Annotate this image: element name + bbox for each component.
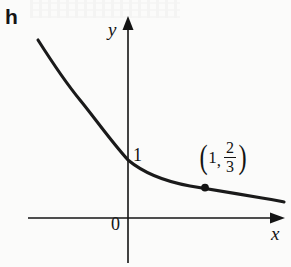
marked-point-dot (201, 184, 209, 192)
exponential-decay-figure: h y x 1 0 ( 1 , 2 3 ) (0, 0, 291, 267)
comma-separator: , (217, 152, 221, 169)
plot-canvas (0, 0, 291, 267)
exponential-curve (38, 40, 284, 202)
point-coordinate-annotation: ( 1 , 2 3 ) (198, 140, 248, 175)
fraction-denominator: 3 (226, 158, 234, 175)
point-x-value: 1 (208, 149, 217, 166)
x-axis-label: x (271, 224, 279, 243)
close-paren: ) (239, 143, 247, 172)
open-paren: ( (200, 143, 208, 172)
y-axis-label: y (108, 20, 116, 39)
fraction-numerator: 2 (226, 140, 234, 157)
y-intercept-tick-label: 1 (133, 146, 142, 164)
point-y-fraction: 2 3 (224, 140, 236, 175)
x-axis-arrowhead (270, 213, 285, 224)
origin-label: 0 (111, 215, 120, 233)
y-axis-arrowhead (123, 16, 134, 30)
